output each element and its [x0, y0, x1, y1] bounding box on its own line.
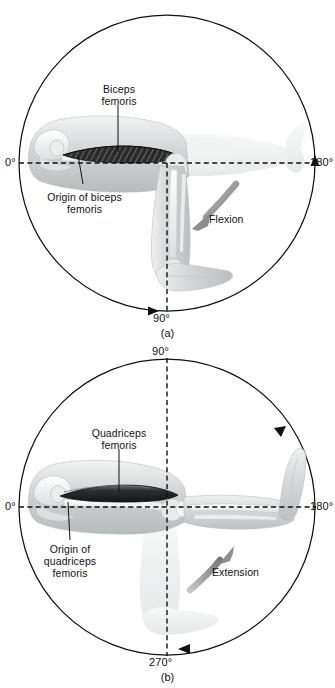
panel-a-stage: 0° 180° 90° Biceps femoris Origin of bic…	[0, 0, 335, 344]
shank-and-foot	[184, 448, 306, 529]
shank-and-foot	[151, 166, 232, 291]
thigh-segment	[28, 460, 188, 534]
label-origin-quadriceps-line3: femoris	[30, 568, 110, 580]
degree-label-left-b: 0°	[5, 501, 16, 513]
degree-label-right-b: 180°	[310, 501, 333, 513]
panel-b-stage: 90° 0° 180° 270° Quadriceps femoris Orig…	[0, 344, 335, 688]
label-origin-biceps-line1: Origin of biceps	[32, 192, 137, 204]
label-extension: Extension	[212, 567, 259, 579]
label-biceps-femoris-line2: femoris	[95, 96, 143, 108]
label-origin-quadriceps-line1: Origin of	[30, 544, 110, 556]
degree-label-bottom-a: 90°	[153, 313, 170, 325]
arrowhead-upper-right	[274, 426, 286, 437]
caption-panel-a: (a)	[0, 327, 335, 339]
label-quadriceps-femoris-line1: Quadriceps	[82, 428, 156, 440]
flexion-illustration	[0, 0, 335, 344]
degree-label-right-a: 180°	[310, 157, 333, 169]
extension-illustration	[0, 344, 335, 688]
panel-flexion: 0° 180° 90° Biceps femoris Origin of bic…	[0, 0, 335, 344]
label-origin-biceps-line2: femoris	[32, 204, 137, 216]
label-flexion: Flexion	[209, 214, 244, 226]
label-quadriceps-femoris-line2: femoris	[82, 440, 156, 452]
degree-label-top-b: 90°	[152, 346, 169, 358]
arrowhead-bottom-left	[178, 644, 190, 654]
panel-extension: 90° 0° 180° 270° Quadriceps femoris Orig…	[0, 344, 335, 688]
label-origin-quadriceps-line2: quadriceps	[30, 556, 110, 568]
label-biceps-femoris-line1: Biceps	[95, 84, 143, 96]
caption-panel-b: (b)	[0, 671, 335, 683]
degree-label-bottom-b: 270°	[149, 657, 172, 669]
degree-label-left-a: 0°	[5, 157, 16, 169]
